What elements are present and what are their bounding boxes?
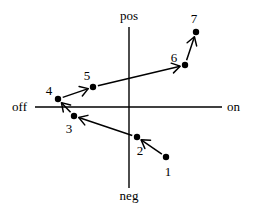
point-label-6: 6 xyxy=(171,50,178,65)
point-label-1: 1 xyxy=(165,164,172,179)
axis-label-neg: neg xyxy=(120,188,139,203)
arrow-2-to-3 xyxy=(79,118,133,136)
state-point-6 xyxy=(182,62,188,68)
state-points xyxy=(55,29,199,160)
point-label-3: 3 xyxy=(66,121,73,136)
state-point-1 xyxy=(163,154,169,160)
point-label-2: 2 xyxy=(137,143,144,158)
state-point-4 xyxy=(55,96,61,102)
point-label-4: 4 xyxy=(46,83,53,98)
state-point-2 xyxy=(134,134,140,140)
arrow-5-to-6 xyxy=(98,66,180,86)
state-point-3 xyxy=(71,113,77,119)
point-label-5: 5 xyxy=(84,68,91,83)
axis-label-off: off xyxy=(12,99,28,114)
state-point-7 xyxy=(193,29,199,35)
point-label-7: 7 xyxy=(191,11,198,26)
axis-label-pos: pos xyxy=(120,8,138,23)
state-trajectory-diagram: pos neg off on 1 2 3 4 5 6 7 xyxy=(0,0,256,212)
axis-label-on: on xyxy=(227,99,241,114)
state-point-5 xyxy=(90,84,96,90)
